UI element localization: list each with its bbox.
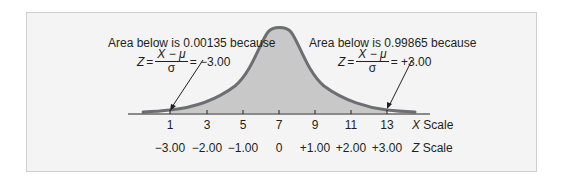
right-denominator: σ <box>356 62 388 75</box>
left-numerator: X − μ <box>155 48 187 62</box>
left-result: = −3.00 <box>190 55 231 69</box>
x-scale-var: X <box>412 118 420 132</box>
z-tick: +2.00 <box>336 141 366 155</box>
z-tick: −1.00 <box>228 141 258 155</box>
z-scale-var: Z <box>412 141 419 155</box>
z-tick: 0 <box>276 141 283 155</box>
x-tick: 3 <box>204 118 211 132</box>
x-tick: 1 <box>167 118 174 132</box>
right-equals: = <box>347 55 354 69</box>
right-z-formula: Z = X − μ σ = +3.00 <box>337 48 432 75</box>
left-fraction: X − μ σ <box>155 48 187 75</box>
x-tick: 13 <box>380 118 393 132</box>
left-z-symbol: Z <box>137 55 144 69</box>
x-scale-word: Scale <box>423 118 453 132</box>
right-result: = +3.00 <box>391 55 432 69</box>
z-tick: −3.00 <box>155 141 185 155</box>
x-tick: 5 <box>240 118 247 132</box>
left-z-formula: Z = X − μ σ = −3.00 <box>136 48 231 75</box>
z-tick: +3.00 <box>372 141 402 155</box>
z-tick: +1.00 <box>300 141 330 155</box>
z-tick: −2.00 <box>192 141 222 155</box>
x-tick: 9 <box>312 118 319 132</box>
z-scale-label: Z Scale <box>412 141 453 155</box>
x-scale-label: X Scale <box>412 118 453 132</box>
x-tick: 7 <box>276 118 283 132</box>
right-fraction: X − μ σ <box>356 48 388 75</box>
left-denominator: σ <box>155 62 187 75</box>
z-scale-word: Scale <box>423 141 453 155</box>
x-tick: 11 <box>345 118 357 132</box>
left-equals: = <box>146 55 153 69</box>
right-numerator: X − μ <box>356 48 388 62</box>
right-z-symbol: Z <box>338 55 345 69</box>
